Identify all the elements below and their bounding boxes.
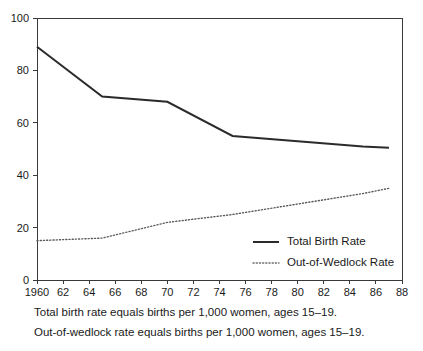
legend-label: Total Birth Rate xyxy=(287,235,366,247)
x-axis-ticks: 19606264666870727476788082848688 xyxy=(25,280,408,298)
footnote-out-of-wedlock-rate: Out-of-wedlock rate equals births per 1,… xyxy=(34,322,423,342)
chart-legend: Total Birth RateOut-of-Wedlock Rate xyxy=(253,235,394,268)
y-tick-label: 0 xyxy=(23,274,29,286)
x-tick-label: 86 xyxy=(370,286,382,298)
x-tick-label: 66 xyxy=(109,286,121,298)
chart-figure: 020406080100 196062646668707274767880828… xyxy=(0,0,423,351)
x-tick-label: 1960 xyxy=(25,286,49,298)
x-tick-label: 64 xyxy=(83,286,95,298)
y-tick-label: 40 xyxy=(17,169,29,181)
x-tick-label: 80 xyxy=(292,286,304,298)
x-tick-label: 84 xyxy=(344,286,356,298)
data-series-group xyxy=(37,47,389,241)
series-line-dotted xyxy=(37,188,389,240)
series-line-solid xyxy=(37,47,389,148)
x-tick-label: 62 xyxy=(57,286,69,298)
x-tick-label: 76 xyxy=(239,286,251,298)
x-tick-label: 72 xyxy=(187,286,199,298)
legend-label: Out-of-Wedlock Rate xyxy=(287,256,394,268)
x-tick-label: 74 xyxy=(213,286,225,298)
x-tick-label: 68 xyxy=(135,286,147,298)
x-tick-label: 70 xyxy=(161,286,173,298)
footnote-total-birth-rate: Total birth rate equals births per 1,000… xyxy=(34,302,423,322)
y-tick-label: 80 xyxy=(17,64,29,76)
x-tick-label: 78 xyxy=(266,286,278,298)
y-tick-label: 60 xyxy=(17,117,29,129)
y-tick-label: 20 xyxy=(17,222,29,234)
y-tick-label: 100 xyxy=(11,12,29,24)
line-chart: 020406080100 196062646668707274767880828… xyxy=(0,0,423,300)
x-tick-label: 82 xyxy=(318,286,330,298)
y-axis-ticks: 020406080100 xyxy=(11,12,37,286)
footnote-block: Total birth rate equals births per 1,000… xyxy=(0,300,423,351)
x-tick-label: 88 xyxy=(396,286,408,298)
